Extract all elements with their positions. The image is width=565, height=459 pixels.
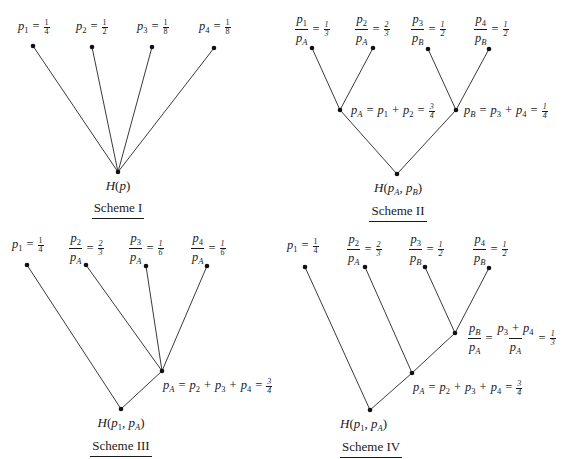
scheme-3-leaf-4-label: p4pA=16: [191, 232, 226, 266]
scheme-4-leaf-3-label: p3pB=12: [409, 233, 444, 267]
scheme-3-caption: H(p1, pA) Scheme III: [78, 415, 164, 457]
scheme-2-node-b-label: pB=p3+p4=14: [464, 103, 548, 120]
scheme-4-caption: H(p1, pA) Scheme IV: [340, 416, 410, 458]
scheme-2-node-a-label: pA=p1+p2=34: [351, 103, 435, 120]
scheme-3-root-label: H(p1, pA): [78, 415, 164, 432]
scheme-4-node-b-label: pBpA=p3+p4pA=13: [468, 322, 556, 356]
scheme-2-leaf-1-label: p1pA=13: [295, 13, 330, 47]
scheme-1-leaf-3-label: p3=18: [137, 19, 169, 36]
scheme-4-root-label: H(p1, pA): [340, 416, 410, 433]
scheme-1-leaf-4-label: p4=18: [199, 19, 231, 36]
scheme-1-leaf-1-label: p1=14: [18, 19, 50, 36]
scheme-1-title: Scheme I: [92, 200, 145, 219]
scheme-4-title: Scheme IV: [340, 439, 402, 458]
scheme-2-title: Scheme II: [369, 203, 426, 222]
scheme-2-leaf-3-label: p3pB=12: [411, 13, 446, 47]
scheme-1-caption: H(p) Scheme I: [78, 178, 158, 219]
scheme-3-leaf-1-label: p1=14: [12, 237, 44, 254]
scheme-1-edges: [33, 46, 214, 172]
scheme-3-leaf-2-label: p2pA=23: [69, 232, 104, 266]
scheme-3-title: Scheme III: [90, 438, 151, 457]
scheme-3-leaf-3-label: p3pA=16: [129, 232, 164, 266]
scheme-2-leaf-4-label: p4pB=12: [474, 13, 509, 47]
scheme-4-leaf-2-label: p2pA=23: [347, 233, 382, 267]
scheme-3-node-a-label: pA=p2+p3+p4=34: [163, 378, 272, 395]
scheme-1-nodes: [31, 44, 217, 175]
scheme-2-leaf-2-label: p2pA=23: [355, 13, 390, 47]
scheme-2-caption: H(pA, pB) Scheme II: [352, 180, 444, 222]
scheme-1-root-label: H(p): [78, 178, 158, 194]
scheme-1-leaf-2-label: p2=12: [76, 19, 108, 36]
scheme-2-root-label: H(pA, pB): [352, 180, 444, 197]
scheme-4-leaf-1-label: p1=14: [287, 238, 319, 255]
scheme-4-leaf-4-label: p4pB=12: [473, 233, 508, 267]
scheme-4-node-a-label: pA=p2+p3+p4=34: [413, 380, 522, 397]
